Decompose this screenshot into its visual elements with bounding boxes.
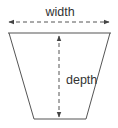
trapezoid-diagram: width depth [0,0,118,128]
depth-label: depth [66,73,97,87]
width-label: width [44,5,74,19]
